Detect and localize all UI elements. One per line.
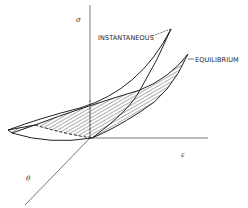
instantaneous-label: INSTANTANEOUS (98, 34, 154, 42)
theta-label: θ (26, 175, 31, 183)
hatched-surface (35, 54, 188, 138)
epsilon-label: ε (181, 151, 185, 159)
equilibrium-label: EQUILIBRIUM (195, 56, 239, 64)
sigma-label: σ (76, 16, 81, 24)
theta-axis (25, 138, 90, 205)
stress-strain-temperature-diagram: σ ε θ INSTANTANEOUS EQUILIBRIUM (0, 0, 248, 208)
